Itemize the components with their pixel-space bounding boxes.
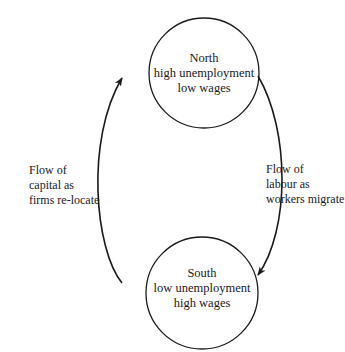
north-label: North high unemployment low wages (149, 51, 259, 96)
south-line2: high wages (147, 296, 257, 311)
north-title: North (149, 51, 259, 66)
labour-flow-label: Flow of labour as workers migrate (266, 162, 344, 207)
south-title: South (147, 266, 257, 281)
south-line1: low unemployment (147, 281, 257, 296)
north-line2: low wages (149, 81, 259, 96)
capital-flow-line2: capital as (29, 178, 99, 193)
labour-flow-line3: workers migrate (266, 192, 344, 207)
labour-flow-line1: Flow of (266, 162, 344, 177)
capital-flow-arrow (98, 78, 122, 283)
labour-flow-line2: labour as (266, 177, 344, 192)
capital-flow-line3: firms re-locate (29, 193, 99, 208)
capital-flow-line1: Flow of (29, 163, 99, 178)
south-label: South low unemployment high wages (147, 266, 257, 311)
north-line1: high unemployment (149, 66, 259, 81)
capital-flow-label: Flow of capital as firms re-locate (29, 163, 99, 208)
